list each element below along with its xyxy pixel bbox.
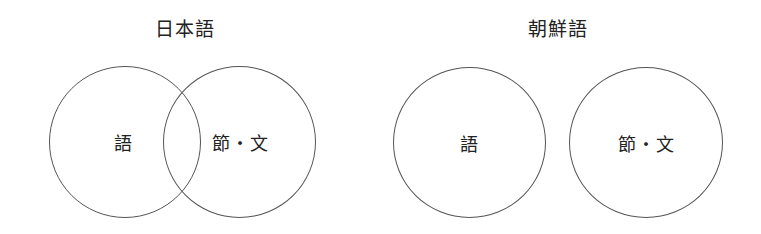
diagram-title-japanese: 日本語: [155, 14, 215, 41]
set-label-clause-sentence: 節・文: [212, 129, 269, 155]
set-label-word: 語: [114, 129, 133, 155]
diagram-title-korean: 朝鮮語: [528, 14, 588, 41]
set-label-word: 語: [460, 130, 479, 156]
set-label-clause-sentence: 節・文: [618, 130, 675, 156]
